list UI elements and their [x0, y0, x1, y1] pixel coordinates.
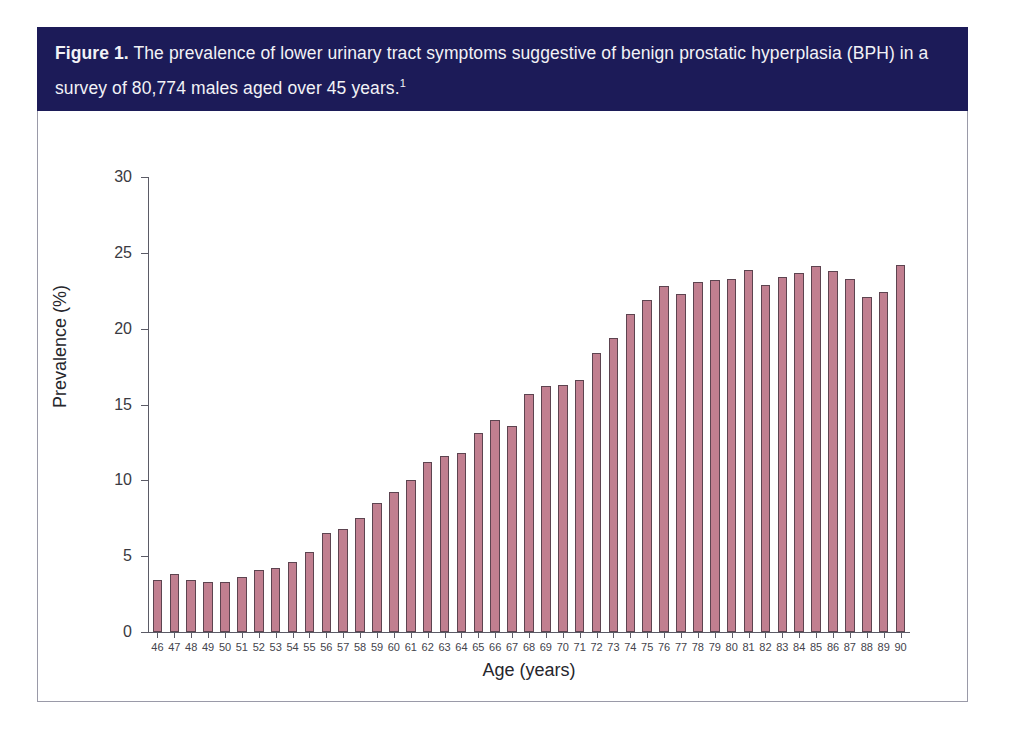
x-axis-tick-label: 67	[506, 641, 518, 653]
y-axis-tick-label: 20	[72, 321, 132, 337]
bar	[642, 300, 651, 632]
x-axis-tick	[276, 633, 277, 638]
x-axis-tick-label: 78	[692, 641, 704, 653]
bar	[727, 279, 736, 632]
x-axis-tick	[630, 633, 631, 638]
bar	[474, 433, 483, 632]
x-axis-tick	[360, 633, 361, 638]
x-axis-tick	[242, 633, 243, 638]
x-axis-tick-label: 68	[523, 641, 535, 653]
chart-panel: Prevalence (%) Age (years) 051015202530 …	[37, 111, 968, 702]
figure-caption-body: The prevalence of lower urinary tract sy…	[55, 43, 928, 98]
x-axis-tick	[326, 633, 327, 638]
x-axis-tick-label: 61	[405, 641, 417, 653]
bar	[828, 271, 837, 632]
bar	[322, 533, 331, 632]
bar	[862, 297, 871, 632]
figure-caption-banner: Figure 1. The prevalence of lower urinar…	[37, 27, 968, 111]
x-axis-tick-label: 80	[726, 641, 738, 653]
x-axis-tick-labels: 4647484950515253545556575859606162636465…	[149, 641, 909, 659]
y-axis-title: Prevalence (%)	[50, 247, 71, 447]
y-axis-tick	[141, 253, 149, 254]
x-axis-tick	[529, 633, 530, 638]
x-axis-tick	[715, 633, 716, 638]
x-axis-tick	[833, 633, 834, 638]
figure-label: Figure 1.	[55, 43, 129, 63]
bar	[237, 577, 246, 632]
x-axis-tick	[174, 633, 175, 638]
y-axis-tick-label: 5	[72, 548, 132, 564]
x-axis-tick-label: 82	[759, 641, 771, 653]
y-axis-tick	[141, 480, 149, 481]
bar-series	[149, 177, 909, 632]
bar	[153, 580, 162, 632]
bar	[659, 286, 668, 632]
bar	[338, 529, 347, 632]
x-axis-tick-label: 62	[422, 641, 434, 653]
bar	[592, 353, 601, 632]
x-axis-tick-label: 56	[320, 641, 332, 653]
x-axis-tick-label: 51	[236, 641, 248, 653]
x-axis-tick	[411, 633, 412, 638]
y-axis-tick	[141, 405, 149, 406]
bar	[693, 282, 702, 632]
x-axis-tick-label: 64	[455, 641, 467, 653]
x-axis-tick-label: 55	[303, 641, 315, 653]
x-axis-tick	[867, 633, 868, 638]
x-axis-tick-label: 72	[590, 641, 602, 653]
x-axis-tick-label: 48	[185, 641, 197, 653]
x-axis-tick	[732, 633, 733, 638]
bar	[710, 280, 719, 632]
x-axis-tick-label: 46	[151, 641, 163, 653]
y-axis-tick	[141, 632, 149, 633]
bar	[761, 285, 770, 632]
bar	[372, 503, 381, 632]
bar	[288, 562, 297, 632]
x-axis-tick-label: 83	[776, 641, 788, 653]
x-axis-tick	[749, 633, 750, 638]
x-axis-tick-label: 49	[202, 641, 214, 653]
x-axis-tick	[208, 633, 209, 638]
x-axis-tick-label: 71	[574, 641, 586, 653]
bar	[896, 265, 905, 632]
x-axis-tick-label: 69	[540, 641, 552, 653]
bar	[845, 279, 854, 632]
x-axis-tick	[698, 633, 699, 638]
x-axis-tick-label: 77	[675, 641, 687, 653]
bar	[389, 492, 398, 632]
x-axis-tick	[765, 633, 766, 638]
bar	[440, 456, 449, 632]
bar	[879, 292, 888, 632]
x-axis-tick-label: 74	[624, 641, 636, 653]
x-axis-tick	[478, 633, 479, 638]
x-axis-title: Age (years)	[148, 660, 910, 681]
x-axis-tick-label: 54	[286, 641, 298, 653]
bar	[524, 394, 533, 632]
x-axis-tick-label: 79	[709, 641, 721, 653]
x-axis-tick	[799, 633, 800, 638]
x-axis-tick	[157, 633, 158, 638]
x-axis-tick-label: 90	[894, 641, 906, 653]
x-axis-tick	[647, 633, 648, 638]
x-axis-tick-label: 65	[472, 641, 484, 653]
x-axis-tick-label: 88	[861, 641, 873, 653]
x-axis-tick-label: 75	[641, 641, 653, 653]
x-axis-tick-label: 73	[607, 641, 619, 653]
x-axis-tick	[428, 633, 429, 638]
x-axis-tick	[259, 633, 260, 638]
x-axis-tick	[664, 633, 665, 638]
x-axis-tick	[394, 633, 395, 638]
x-axis-tick	[225, 633, 226, 638]
bar	[186, 580, 195, 632]
x-axis-tick-label: 53	[270, 641, 282, 653]
x-axis-tick-label: 47	[168, 641, 180, 653]
bar	[541, 386, 550, 632]
x-axis-tick-label: 50	[219, 641, 231, 653]
bar	[811, 266, 820, 632]
x-axis-tick	[495, 633, 496, 638]
x-axis-tick	[782, 633, 783, 638]
bar	[609, 338, 618, 632]
footnote-marker: 1	[400, 77, 406, 89]
x-axis-tick	[901, 633, 902, 638]
bar	[676, 294, 685, 632]
